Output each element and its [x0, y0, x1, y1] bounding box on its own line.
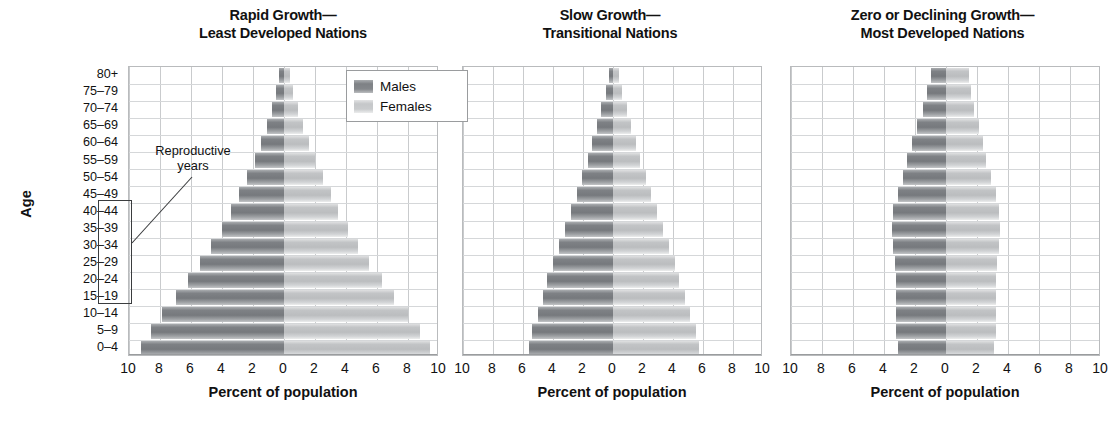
x-axis-tick-label: 10 [775, 360, 805, 376]
pyramid-row [791, 255, 1099, 272]
age-tick-label: 60–64 [38, 136, 118, 149]
x-axis-title-panel-1: Percent of population [128, 384, 438, 400]
panel-title-line1: Rapid Growth— [230, 7, 337, 23]
pyramid-row [463, 306, 761, 323]
bar-female [613, 222, 663, 237]
bar-female [613, 307, 690, 322]
bar-male [577, 187, 613, 202]
x-axis-tick-label: 2 [237, 360, 267, 376]
bar-male [188, 273, 284, 288]
x-axis-tick-label: 2 [567, 360, 597, 376]
bar-male [923, 102, 946, 117]
bar-female [946, 136, 983, 151]
x-axis-tick-label: 4 [868, 360, 898, 376]
bar-male [559, 239, 613, 254]
bar-female [946, 204, 999, 219]
bar-male [606, 85, 614, 100]
legend-label-females: Females [380, 99, 432, 114]
panel-slow-growth [462, 66, 762, 356]
bar-male [931, 68, 947, 83]
bar-female [946, 153, 986, 168]
x-axis-tick-label: 8 [1054, 360, 1084, 376]
bar-female [284, 85, 293, 100]
bar-male [276, 85, 284, 100]
panel-zero-declining-growth [790, 66, 1100, 356]
bar-female [613, 204, 657, 219]
bar-female [284, 170, 323, 185]
bar-male [896, 307, 946, 322]
bar-female [284, 307, 408, 322]
bar-female [946, 102, 974, 117]
bar-female [946, 85, 971, 100]
bar-male [896, 273, 946, 288]
x-axis-tick-label: 10 [113, 360, 143, 376]
pyramid-row [463, 84, 761, 101]
bar-female [613, 170, 646, 185]
pyramid-row [463, 135, 761, 152]
bar-male [547, 273, 613, 288]
x-axis-tick-label: 4 [657, 360, 687, 376]
bar-male [261, 136, 284, 151]
x-axis-tick-label: 6 [507, 360, 537, 376]
bar-male [151, 324, 284, 339]
bar-female [613, 85, 622, 100]
bar-female [946, 187, 996, 202]
bar-male [895, 256, 946, 271]
pyramid-row [463, 238, 761, 255]
bar-female [613, 102, 627, 117]
age-tick-label: 55–59 [38, 154, 118, 167]
x-axis-ticks-panel-3: 1086420246810 [790, 360, 1100, 380]
bar-male [896, 290, 946, 305]
panel-title-line2: Most Developed Nations [785, 24, 1100, 42]
bar-male [896, 324, 946, 339]
bar-female [946, 239, 999, 254]
panel-title-zero-declining-growth: Zero or Declining Growth— Most Developed… [785, 6, 1100, 42]
legend-label-males: Males [380, 79, 416, 94]
bar-female [613, 68, 619, 83]
bar-female [946, 290, 996, 305]
age-tick-label: 80+ [38, 68, 118, 81]
x-axis-tick-label: 10 [447, 360, 477, 376]
bar-male [912, 136, 946, 151]
bar-female [284, 153, 315, 168]
axis-baseline [463, 354, 761, 356]
pyramid-row [129, 186, 437, 203]
pyramid-row [129, 203, 437, 220]
x-axis-tick-label: 4 [537, 360, 567, 376]
bar-female [284, 273, 382, 288]
axis-baseline [791, 354, 1099, 356]
pyramid-row [791, 203, 1099, 220]
bar-male [222, 222, 284, 237]
pyramid-row [463, 186, 761, 203]
x-axis-tick-label: 4 [206, 360, 236, 376]
bar-male [538, 307, 613, 322]
bar-male [592, 136, 613, 151]
x-axis-title-panel-2: Percent of population [462, 384, 762, 400]
bar-female [284, 290, 394, 305]
pyramid-row [791, 323, 1099, 340]
pyramid-row [463, 101, 761, 118]
legend-row-males: Males [354, 76, 460, 96]
age-tick-label: 70–74 [38, 102, 118, 115]
pyramid-row [791, 135, 1099, 152]
plot-area [790, 66, 1100, 356]
panel-title-line2: Transitional Nations [460, 24, 760, 42]
x-axis-tick-label: 8 [392, 360, 422, 376]
age-tick-label: 45–49 [38, 188, 118, 201]
pyramid-row [463, 169, 761, 186]
bar-male [927, 85, 946, 100]
pyramid-row [463, 203, 761, 220]
pyramid-row [791, 84, 1099, 101]
x-axis-tick-label: 6 [175, 360, 205, 376]
pyramid-row [791, 238, 1099, 255]
pyramid-row [463, 118, 761, 135]
bar-male [907, 153, 946, 168]
legend-row-females: Females [354, 96, 460, 116]
bar-male [543, 290, 614, 305]
age-tick-label: 65–69 [38, 119, 118, 132]
pyramid-row [129, 289, 437, 306]
pyramid-row [463, 152, 761, 169]
bar-male [917, 119, 946, 134]
age-tick-label: 50–54 [38, 171, 118, 184]
